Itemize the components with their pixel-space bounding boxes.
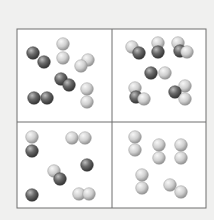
light-atom-icon [136, 169, 149, 182]
light-atom-icon [136, 182, 149, 195]
dark-atom-icon [27, 47, 40, 60]
light-atom-icon [153, 139, 166, 152]
light-atom-icon [26, 131, 39, 144]
light-atom-icon [175, 186, 188, 199]
dark-atom-icon [63, 79, 76, 92]
light-atom-icon [75, 60, 88, 73]
dark-atom-icon [54, 173, 67, 186]
light-atom-icon [81, 96, 94, 109]
light-atom-icon [153, 152, 166, 165]
dark-atom-icon [26, 145, 39, 158]
light-atom-icon [164, 179, 177, 192]
light-atom-icon [175, 139, 188, 152]
dark-atom-icon [81, 159, 94, 172]
dark-atom-icon [133, 47, 146, 60]
light-atom-icon [57, 52, 70, 65]
light-atom-icon [179, 93, 192, 106]
dark-atom-icon [28, 92, 41, 105]
light-atom-icon [129, 131, 142, 144]
light-atom-icon [79, 132, 92, 145]
light-atom-icon [66, 132, 79, 145]
dark-atom-icon [145, 67, 158, 80]
light-atom-icon [83, 188, 96, 201]
light-atom-icon [181, 46, 194, 59]
light-atom-icon [159, 67, 172, 80]
molecule-diagram [0, 0, 214, 220]
light-atom-icon [81, 83, 94, 96]
light-atom-icon [129, 144, 142, 157]
light-atom-icon [57, 38, 70, 51]
dark-atom-icon [38, 56, 51, 69]
dark-atom-icon [41, 92, 54, 105]
light-atom-icon [175, 152, 188, 165]
light-atom-icon [138, 93, 151, 106]
dark-atom-icon [152, 46, 165, 59]
dark-atom-icon [26, 189, 39, 202]
